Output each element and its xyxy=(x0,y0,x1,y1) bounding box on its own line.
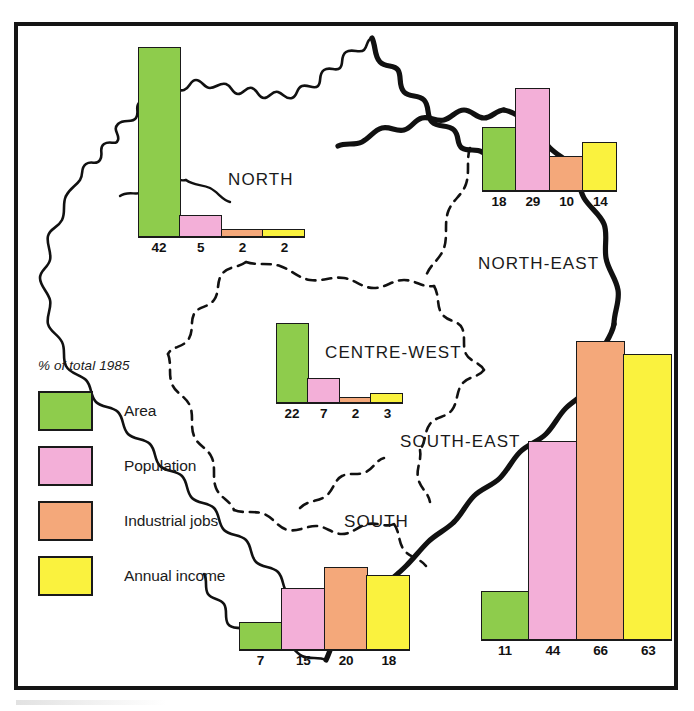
value-label-south-industrial-jobs: 20 xyxy=(325,653,368,668)
bar-south-east-industrial-jobs xyxy=(576,341,625,641)
legend-swatch-population xyxy=(38,446,93,486)
legend-label-population: Population xyxy=(124,457,196,475)
legend-label-annual-income: Annual income xyxy=(124,567,225,585)
region-label-south-east: SOUTH-EAST xyxy=(400,432,521,452)
boundary-north-northeast xyxy=(426,148,470,276)
region-label-north-east: NORTH-EAST xyxy=(478,254,599,274)
value-label-south-east-annual-income: 63 xyxy=(624,643,672,658)
bar-south-annual-income xyxy=(366,575,410,651)
region-label-centre-west: CENTRE-WEST xyxy=(325,343,462,363)
scan-artifact xyxy=(16,700,166,705)
value-label-south-population: 15 xyxy=(282,653,325,668)
boundary-centrewest-right-edge xyxy=(418,450,430,502)
axis-south-east xyxy=(481,639,672,641)
legend-item-population: Population xyxy=(38,442,253,490)
legend-swatch-annual-income xyxy=(38,556,93,596)
bar-south-east-population xyxy=(528,441,577,641)
value-label-north-population: 5 xyxy=(180,240,222,255)
value-label-north-area: 42 xyxy=(138,240,180,255)
bar-south-area xyxy=(239,622,283,651)
legend-item-area: Area xyxy=(38,387,253,435)
value-label-south-east-population: 44 xyxy=(529,643,577,658)
bars-south xyxy=(239,0,409,651)
bar-north-area xyxy=(138,47,181,238)
value-labels-south-east: 11446663 xyxy=(481,643,672,658)
legend-swatch-industrial-jobs xyxy=(38,501,93,541)
legend-item-annual-income: Annual income xyxy=(38,552,253,600)
bar-group-south: 7152018 xyxy=(239,0,410,651)
legend-label-industrial-jobs: Industrial jobs xyxy=(124,512,218,530)
value-label-south-area: 7 xyxy=(239,653,282,668)
legend: % of total 1985 Area Population Industri… xyxy=(38,358,253,607)
bar-south-east-area xyxy=(481,591,530,641)
legend-swatch-area xyxy=(38,391,93,431)
bar-south-industrial-jobs xyxy=(324,567,368,651)
legend-label-area: Area xyxy=(124,402,156,420)
bar-south-population xyxy=(281,588,325,651)
bars-south-east xyxy=(481,0,671,641)
legend-item-industrial-jobs: Industrial jobs xyxy=(38,497,253,545)
value-label-south-annual-income: 18 xyxy=(367,653,410,668)
axis-south xyxy=(239,649,410,651)
figure-root: 42522 18291014 22723 11446663 7152018 NO… xyxy=(0,0,694,711)
value-label-south-east-industrial-jobs: 66 xyxy=(577,643,625,658)
legend-title: % of total 1985 xyxy=(38,358,253,373)
boundary-north-west-inner xyxy=(168,262,246,354)
bar-north-population xyxy=(179,215,222,238)
value-labels-south: 7152018 xyxy=(239,653,410,668)
bar-group-south-east: 11446663 xyxy=(481,0,672,641)
region-label-north: NORTH xyxy=(228,170,294,190)
region-label-south: SOUTH xyxy=(344,512,409,532)
bar-south-east-annual-income xyxy=(623,354,672,641)
value-label-south-east-area: 11 xyxy=(481,643,529,658)
